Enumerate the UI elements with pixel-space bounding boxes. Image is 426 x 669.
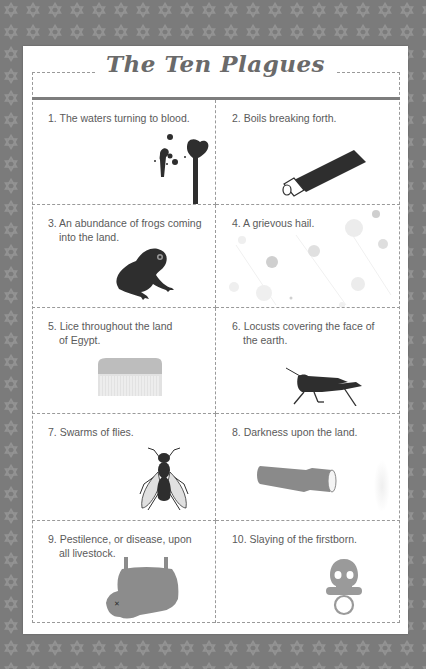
plague-text: Swarms of flies. xyxy=(60,426,134,438)
plague-text: Boils breaking forth. xyxy=(244,112,337,124)
skull-pacifier-icon xyxy=(324,557,364,617)
plague-number: 7. xyxy=(48,425,57,439)
plague-text: Darkness upon the land. xyxy=(244,426,358,438)
plague-text-continued: the earth. xyxy=(232,333,392,347)
locust-icon xyxy=(284,366,374,406)
plague-text: Slaying of the firstborn. xyxy=(250,533,357,545)
plague-cell-8: 8. Darkness upon the land. xyxy=(216,414,400,521)
plague-cell-6: 6. Locusts covering the face ofthe earth… xyxy=(216,308,400,414)
plagues-card: The Ten Plagues 1. The waters turning to… xyxy=(23,46,408,634)
plague-text: An abundance of frogs coming xyxy=(59,217,201,229)
plague-number: 3. xyxy=(48,216,57,230)
plague-cell-9: 9. Pestilence, or disease, uponall lives… xyxy=(32,521,216,623)
plague-cell-3: 3. An abundance of frogs cominginto the … xyxy=(32,205,216,308)
plague-number: 10. xyxy=(232,532,247,546)
plague-cell-7: 7. Swarms of flies. xyxy=(32,414,216,521)
plague-cell-2: 2. Boils breaking forth. xyxy=(216,100,400,205)
fly-icon xyxy=(130,444,200,516)
plague-cell-1: 1. The waters turning to blood. xyxy=(32,100,216,205)
plague-cell-4: 4. A grievous hail. xyxy=(216,205,400,308)
svg-text:✕: ✕ xyxy=(114,600,120,607)
plague-cell-5: 5. Lice throughout the landof Egypt. xyxy=(32,308,216,414)
plague-number: 5. xyxy=(48,319,57,333)
plague-number: 9. xyxy=(48,532,57,546)
page-title: The Ten Plagues xyxy=(96,50,335,77)
plague-number: 6. xyxy=(232,319,241,333)
cow-hide-icon: ✕ xyxy=(102,557,182,619)
plague-number: 2. xyxy=(232,111,241,125)
blood-splatter-icon xyxy=(150,134,210,205)
plague-text: Pestilence, or disease, upon xyxy=(60,533,192,545)
hailstones-icon xyxy=(216,205,400,308)
plague-text-continued: into the land. xyxy=(48,230,208,244)
plague-text: The waters turning to blood. xyxy=(60,112,190,124)
lice-comb-icon xyxy=(94,356,164,401)
plague-number: 8. xyxy=(232,425,241,439)
plagues-grid: 1. The waters turning to blood. 2. Boils… xyxy=(32,100,400,623)
plague-text: Lice throughout the land xyxy=(60,320,173,332)
flashlight-icon xyxy=(256,458,396,518)
ointment-tube-icon xyxy=(276,142,376,197)
frog-icon xyxy=(106,245,181,305)
plague-cell-10: 10. Slaying of the firstborn. xyxy=(216,521,400,623)
plague-text: Locusts covering the face of xyxy=(244,320,375,332)
plague-number: 1. xyxy=(48,111,57,125)
plague-text-continued: of Egypt. xyxy=(48,333,208,347)
